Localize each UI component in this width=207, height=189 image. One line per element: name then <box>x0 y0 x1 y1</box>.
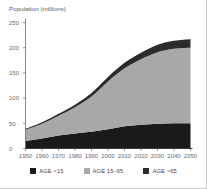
legend-swatch-age-15-65 <box>84 168 90 174</box>
x-tick-label: 1970 <box>52 153 66 159</box>
stacked-area-chart: 0501001502002501950196019701980199020002… <box>0 0 207 160</box>
population-area-chart-figure: Population (millions) 050100150200250195… <box>0 0 207 189</box>
y-tick-label: 250 <box>9 20 20 26</box>
legend-swatch-age-under-15 <box>30 168 36 174</box>
legend-label-age-under-15: AGE <15 <box>39 168 63 174</box>
x-tick-label: 2030 <box>151 153 165 159</box>
x-tick-label: 1960 <box>35 153 49 159</box>
x-tick-label: 2050 <box>184 153 198 159</box>
legend-item-age-over-65[interactable]: AGE >65 <box>143 168 176 174</box>
y-tick-label: 0 <box>9 146 13 152</box>
y-tick-label: 200 <box>9 45 20 51</box>
x-tick-label: 2010 <box>118 153 132 159</box>
y-tick-label: 150 <box>9 70 20 76</box>
x-tick-label: 1990 <box>85 153 99 159</box>
x-tick-label: 1950 <box>19 153 33 159</box>
y-tick-label: 100 <box>9 95 20 101</box>
y-tick-label: 50 <box>9 121 16 127</box>
chart-legend: AGE <15 AGE 15–65 AGE >65 <box>0 164 207 178</box>
legend-item-age-15-65[interactable]: AGE 15–65 <box>84 168 124 174</box>
legend-swatch-age-over-65 <box>143 168 149 174</box>
x-tick-label: 2020 <box>134 153 148 159</box>
legend-item-age-under-15[interactable]: AGE <15 <box>30 168 63 174</box>
x-tick-label: 1980 <box>68 153 82 159</box>
plot-area: 0501001502002501950196019701980199020002… <box>0 0 207 160</box>
x-tick-label: 2000 <box>101 153 115 159</box>
legend-label-age-15-65: AGE 15–65 <box>93 168 124 174</box>
legend-label-age-over-65: AGE >65 <box>152 168 176 174</box>
x-tick-label: 2040 <box>167 153 181 159</box>
